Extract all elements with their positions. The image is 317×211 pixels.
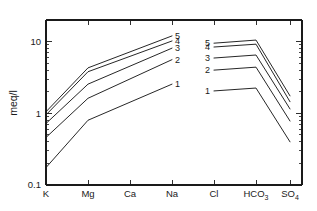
x-axis-label-Ca: Ca [124,188,137,199]
chart-background [0,0,317,211]
chart-page: 1010.1 KMgCaNaClHCO3SO4 5544332211 meq/l [0,0,317,211]
series-label-right-4: 4 [205,42,210,52]
series-label-right-3: 3 [205,53,210,63]
series-label-left-1: 1 [175,79,180,89]
x-axis-label-Mg: Mg [81,188,94,199]
y-axis-title: meq/l [7,90,19,116]
series-label-right-1: 1 [205,86,210,96]
series-label-left-3: 3 [175,43,180,53]
y-tick-label: 0.1 [28,179,41,190]
y-tick-label: 10 [30,36,41,47]
series-label-right-2: 2 [205,65,210,75]
x-axis-label-Na: Na [166,188,179,199]
y-tick-label: 1 [36,108,41,119]
x-axis-label-K: K [43,188,50,199]
series-label-left-2: 2 [175,55,180,65]
x-axis-label-Cl: Cl [210,188,219,199]
water-chemistry-line-chart: 1010.1 KMgCaNaClHCO3SO4 5544332211 meq/l [0,0,317,211]
